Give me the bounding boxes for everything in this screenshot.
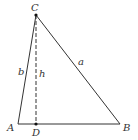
label-d: D bbox=[31, 127, 40, 138]
label-b-vertex: B bbox=[122, 122, 130, 133]
label-a-vertex: A bbox=[6, 122, 14, 133]
label-altitude-h: h bbox=[39, 68, 45, 79]
point-c bbox=[34, 13, 37, 16]
triangle-diagram: C A D B b h a bbox=[0, 0, 138, 140]
side-a bbox=[36, 15, 120, 124]
label-side-b: b bbox=[18, 66, 24, 77]
point-d bbox=[34, 122, 37, 125]
label-c: C bbox=[31, 2, 39, 13]
label-side-a: a bbox=[78, 56, 84, 67]
